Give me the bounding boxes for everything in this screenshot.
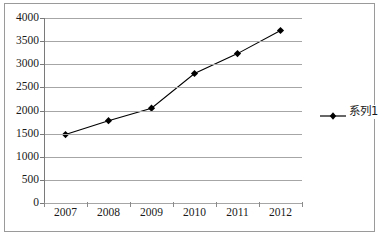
- y-axis-tick-label: 3000: [16, 59, 39, 71]
- y-axis-tick: [40, 180, 45, 181]
- gridline: [44, 18, 302, 19]
- x-axis-labels: 200720082009201020112012: [44, 207, 302, 223]
- gridline: [44, 134, 302, 135]
- y-axis-tick: [40, 111, 45, 112]
- gridline: [44, 87, 302, 88]
- x-axis-tick-label: 2011: [226, 207, 249, 219]
- y-axis-tick: [40, 87, 45, 88]
- legend-marker-icon: [320, 107, 346, 117]
- y-axis-tick-label: 3500: [16, 35, 39, 47]
- y-axis-tick: [40, 134, 45, 135]
- y-axis-tick-label: 2000: [16, 105, 39, 117]
- gridline: [44, 64, 302, 65]
- y-axis-tick-label: 500: [22, 174, 39, 186]
- y-axis-tick-label: 2500: [16, 82, 39, 94]
- x-axis-tick-label: 2008: [97, 207, 120, 219]
- legend: 系列1: [318, 105, 380, 119]
- data-point-marker: [105, 117, 112, 124]
- gridline: [44, 41, 302, 42]
- y-axis-tick: [40, 64, 45, 65]
- y-axis-tick: [40, 157, 45, 158]
- y-axis-labels: 05001000150020002500300035004000: [0, 18, 39, 203]
- x-axis-tick-label: 2010: [183, 207, 206, 219]
- gridline: [44, 157, 302, 158]
- x-axis-tick: [302, 202, 303, 207]
- series-line: [66, 30, 281, 134]
- legend-label-series-1: 系列1: [349, 106, 378, 118]
- y-axis-tick-label: 1500: [16, 128, 39, 140]
- x-axis-tick-label: 2012: [269, 207, 292, 219]
- y-axis-tick-label: 1000: [16, 151, 39, 163]
- gridline: [44, 180, 302, 181]
- y-axis-tick-label: 4000: [16, 12, 39, 24]
- data-point-marker: [277, 27, 284, 34]
- line-chart: 05001000150020002500300035004000 2007200…: [0, 0, 380, 239]
- y-axis-tick-label: 0: [33, 197, 39, 209]
- y-axis-tick: [40, 41, 45, 42]
- plot-area: [44, 18, 302, 203]
- gridline: [44, 111, 302, 112]
- x-axis-tick-label: 2007: [54, 207, 77, 219]
- y-axis-tick: [40, 18, 45, 19]
- data-point-marker: [234, 50, 241, 57]
- x-axis-tick-label: 2009: [140, 207, 163, 219]
